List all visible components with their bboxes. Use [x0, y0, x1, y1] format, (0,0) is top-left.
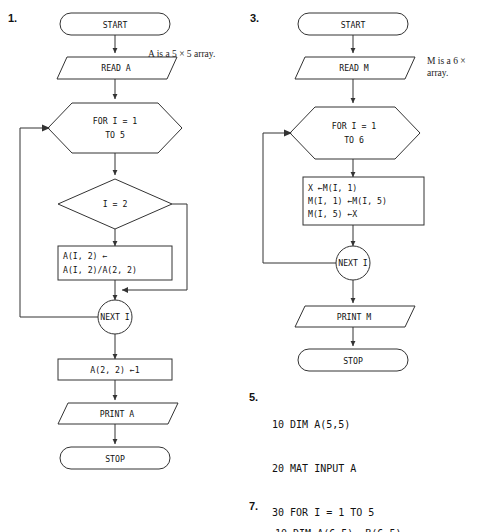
node-print-label: PRINT A: [100, 409, 135, 419]
node3-next-label: NEXT I: [338, 258, 368, 268]
problem-7-number: 7.: [249, 500, 258, 512]
code-line: 10 DIM A(6,5), B(6,5): [275, 527, 401, 532]
connector-decision-bypass-arrow: [122, 287, 128, 293]
node3-swap-line3: M(I, 5) ←X: [308, 209, 357, 219]
problem-5-number: 5.: [249, 391, 258, 403]
node3-for-line2: TO 6: [344, 135, 364, 145]
node-next-label: NEXT I: [100, 312, 130, 322]
connector-loop-back: [20, 128, 98, 317]
node3-start-label: START: [341, 20, 366, 30]
worksheet-page: 1. A is a 5 × 5 array. START READ A FOR …: [0, 0, 478, 532]
node3-print-label: PRINT M: [337, 312, 372, 322]
node-start-label: START: [103, 20, 128, 30]
flowchart-3: START READ M FOR I = 1 TO 6 X ←M(I, 1) M…: [240, 0, 478, 375]
code-line: 20 MAT INPUT A: [272, 462, 423, 477]
node3-stop-label: STOP: [343, 356, 363, 366]
problem-7-code: 10 DIM A(6,5), B(6,5) 20 MAT INPUT A: [275, 498, 401, 532]
node3-for-loop: [290, 107, 420, 159]
node-process-line1: A(I, 2) ←: [63, 251, 107, 261]
node3-swap-line2: M(I, 1) ←M(I, 5): [308, 196, 387, 206]
node-stop-label: STOP: [105, 454, 125, 464]
code-line: 10 DIM A(5,5): [272, 418, 423, 433]
node-for-line1: FOR I = 1: [93, 116, 137, 126]
node3-for-line1: FOR I = 1: [332, 121, 376, 131]
node-for-line2: TO 5: [105, 130, 125, 140]
node-for-loop: [48, 103, 182, 153]
connector3-loop-back-arrow: [284, 130, 292, 137]
connector-loop-back-arrow: [42, 125, 50, 132]
node3-read-label: READ M: [339, 63, 369, 73]
node-read-label: READ A: [101, 63, 131, 73]
node-process-line2: A(I, 2)/A(2, 2): [63, 265, 137, 275]
node3-swap-line1: X ←M(I, 1): [308, 183, 357, 193]
flowchart-1: START READ A FOR I = 1 TO 5 I = 2 A(I, 2…: [0, 0, 240, 475]
node-assign-label: A(2, 2) ←1: [90, 365, 139, 375]
node-decision-label: I = 2: [103, 199, 128, 209]
